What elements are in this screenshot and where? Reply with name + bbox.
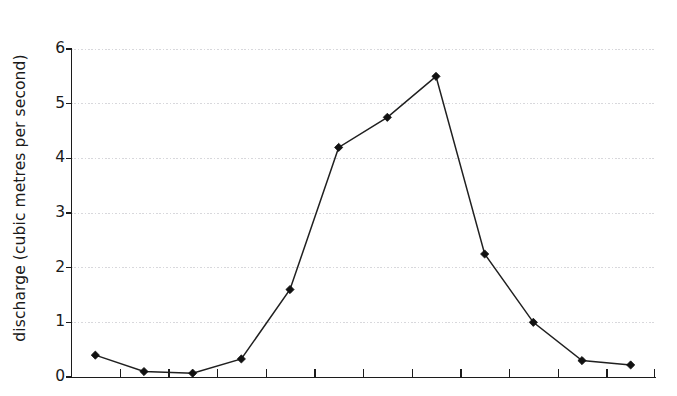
data-point-1 (91, 351, 99, 359)
data-markers-group (91, 72, 635, 377)
data-point-12 (627, 361, 635, 369)
discharge-line (95, 76, 630, 373)
data-point-2 (140, 367, 148, 375)
data-point-3 (189, 369, 197, 377)
discharge-hydrograph-chart: discharge (cubic metres per second) 0123… (0, 0, 677, 396)
data-point-6 (335, 143, 343, 151)
data-series-layer (0, 0, 677, 396)
